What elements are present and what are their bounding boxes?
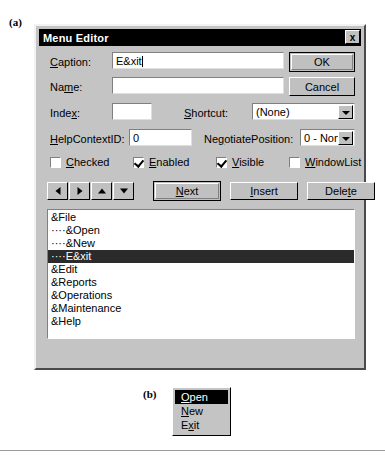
shortcut-select[interactable]: (None) — [252, 103, 355, 120]
name-input[interactable] — [112, 77, 284, 94]
next-button[interactable]: Next — [153, 181, 221, 201]
checkbox-label-checked: Checked — [66, 156, 109, 168]
ok-button-label: OK — [314, 56, 330, 68]
list-item[interactable]: &Edit — [48, 263, 354, 276]
caption-value: E&xit — [116, 55, 142, 67]
figure-label-b: (b) — [143, 388, 156, 400]
checkbox-box-visible[interactable] — [216, 157, 227, 168]
checkbox-box-windowlist[interactable] — [289, 157, 300, 168]
index-label: Index: — [50, 107, 80, 119]
arrow-up-icon-button[interactable] — [91, 182, 112, 200]
helpcontextid-label: HelpContextID: — [50, 133, 125, 145]
list-item[interactable]: &File — [48, 211, 354, 224]
list-item[interactable]: ····&Open — [48, 224, 354, 237]
chevron-down-icon[interactable] — [338, 131, 353, 145]
text-caret — [142, 56, 143, 67]
delete-button-label: Delete — [325, 185, 357, 197]
checkbox-label-enabled: Enabled — [149, 156, 189, 168]
dialog-titlebar[interactable]: Menu Editor x — [39, 29, 361, 46]
checkbox-box-enabled[interactable] — [133, 157, 144, 168]
helpcontextid-input[interactable]: 0 — [129, 129, 192, 146]
cancel-button-label: Cancel — [305, 81, 339, 93]
caption-input[interactable]: E&xit — [112, 52, 284, 69]
menu-item-new[interactable]: New — [175, 404, 228, 418]
close-icon[interactable]: x — [345, 30, 360, 44]
negotiateposition-label: NegotiatePosition: — [204, 133, 293, 145]
checkbox-windowlist[interactable]: WindowList — [289, 156, 361, 168]
arrow-left-icon-button[interactable] — [47, 182, 68, 200]
shortcut-value: (None) — [256, 106, 290, 118]
checkbox-visible[interactable]: Visible — [216, 156, 264, 168]
name-label: Name: — [50, 81, 82, 93]
negotiateposition-select[interactable]: 0 - None — [300, 129, 355, 146]
delete-button[interactable]: Delete — [307, 182, 375, 200]
caption-label: Caption: — [50, 56, 91, 68]
menu-listbox[interactable]: &File ····&Open ····&New ····E&xit &Edit… — [47, 209, 355, 339]
cancel-button[interactable]: Cancel — [289, 77, 355, 96]
menu-item-open[interactable]: Open — [175, 390, 228, 404]
menu-item-exit[interactable]: Exit — [175, 418, 228, 432]
list-item[interactable]: ····&New — [48, 237, 354, 250]
menu-editor-dialog: Menu Editor x Caption: E&xit Name: Index… — [34, 24, 366, 370]
dialog-title: Menu Editor — [39, 32, 109, 44]
figure-label-a: (a) — [9, 16, 22, 28]
insert-button-label: Insert — [250, 185, 278, 197]
list-item[interactable]: &Maintenance — [48, 302, 354, 315]
chevron-down-icon[interactable] — [338, 105, 353, 119]
checkbox-enabled[interactable]: Enabled — [133, 156, 189, 168]
checkbox-box-checked[interactable] — [50, 157, 61, 168]
checkbox-label-windowlist: WindowList — [305, 156, 361, 168]
checkbox-checked[interactable]: Checked — [50, 156, 109, 168]
arrow-right-icon-button[interactable] — [69, 182, 90, 200]
list-item[interactable]: &Operations — [48, 289, 354, 302]
checkbox-label-visible: Visible — [232, 156, 264, 168]
ok-button[interactable]: OK — [289, 52, 355, 72]
shortcut-label: Shortcut: — [184, 107, 228, 119]
list-item[interactable]: &Reports — [48, 276, 354, 289]
next-button-label: Next — [176, 185, 199, 197]
index-input[interactable] — [112, 103, 152, 120]
popup-menu: Open New Exit — [172, 387, 231, 436]
list-item-selected[interactable]: ····E&xit — [48, 250, 354, 263]
list-item[interactable]: &Help — [48, 315, 354, 328]
insert-button[interactable]: Insert — [230, 182, 298, 200]
arrow-down-icon-button[interactable] — [113, 182, 134, 200]
page-divider — [0, 450, 385, 451]
